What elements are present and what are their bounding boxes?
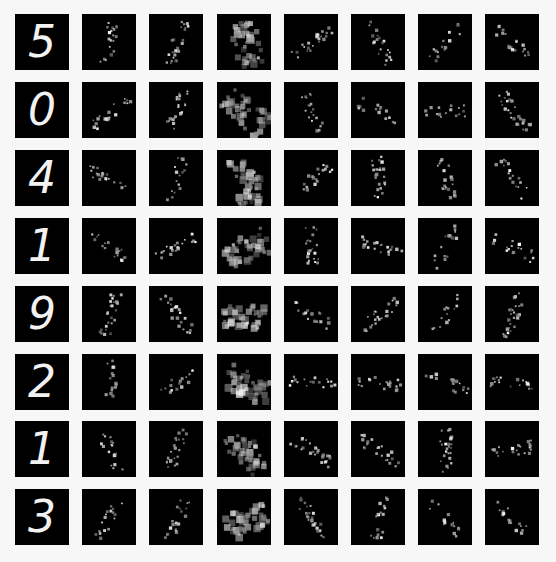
feature-map-tile <box>485 218 539 274</box>
activation-pattern-icon <box>485 421 539 477</box>
input-digit-tile: 2 <box>15 354 69 410</box>
activation-pattern-icon <box>485 82 539 138</box>
feature-map-tile <box>82 286 136 342</box>
activation-pattern-icon <box>284 421 338 477</box>
feature-map-tile <box>485 354 539 410</box>
feature-map-tile <box>149 14 203 70</box>
activation-pattern-icon <box>217 14 271 70</box>
activation-pattern-icon <box>284 489 338 545</box>
activation-pattern-icon <box>485 489 539 545</box>
feature-map-tile <box>82 14 136 70</box>
feature-map-tile <box>418 218 472 274</box>
feature-map-tile <box>82 218 136 274</box>
feature-map-tile <box>485 421 539 477</box>
feature-map-tile <box>149 150 203 206</box>
activation-pattern-icon <box>284 82 338 138</box>
feature-map-tile <box>351 421 405 477</box>
digit-label: 2 <box>15 354 69 410</box>
activation-pattern-icon <box>418 286 472 342</box>
feature-map-tile <box>284 218 338 274</box>
feature-map-tile <box>217 489 271 545</box>
feature-map-tile <box>418 286 472 342</box>
activation-pattern-icon <box>217 218 271 274</box>
feature-map-tile <box>485 286 539 342</box>
activation-pattern-icon <box>418 354 472 410</box>
feature-map-tile <box>284 14 338 70</box>
feature-map-tile <box>217 286 271 342</box>
feature-map-tile <box>418 421 472 477</box>
feature-map-tile <box>82 421 136 477</box>
activation-pattern-icon <box>351 82 405 138</box>
feature-map-tile <box>485 150 539 206</box>
feature-map-tile <box>217 82 271 138</box>
feature-map-tile <box>82 354 136 410</box>
input-digit-tile: 1 <box>15 218 69 274</box>
activation-pattern-icon <box>149 354 203 410</box>
activation-pattern-icon <box>351 354 405 410</box>
feature-map-tile <box>149 421 203 477</box>
digit-label: 0 <box>15 82 69 138</box>
activation-pattern-icon <box>149 14 203 70</box>
activation-pattern-icon <box>418 14 472 70</box>
activation-pattern-icon <box>217 82 271 138</box>
feature-map-tile <box>351 14 405 70</box>
activation-pattern-icon <box>284 218 338 274</box>
activation-pattern-icon <box>418 82 472 138</box>
feature-map-tile <box>284 82 338 138</box>
feature-map-tile <box>217 150 271 206</box>
digit-label: 4 <box>15 150 69 206</box>
digit-label: 9 <box>15 286 69 342</box>
feature-map-tile <box>149 82 203 138</box>
activation-pattern-icon <box>351 489 405 545</box>
activation-pattern-icon <box>284 14 338 70</box>
activation-pattern-icon <box>82 489 136 545</box>
activation-pattern-icon <box>351 150 405 206</box>
activation-pattern-icon <box>485 354 539 410</box>
input-digit-tile: 4 <box>15 150 69 206</box>
feature-map-tile <box>217 218 271 274</box>
activation-pattern-icon <box>149 286 203 342</box>
input-digit-tile: 5 <box>15 14 69 70</box>
feature-map-tile <box>418 489 472 545</box>
activation-pattern-icon <box>82 286 136 342</box>
feature-map-tile <box>351 354 405 410</box>
feature-map-tile <box>284 286 338 342</box>
feature-map-tile <box>217 354 271 410</box>
feature-map-tile <box>284 150 338 206</box>
feature-map-grid: 50419213 <box>0 0 556 562</box>
input-digit-tile: 3 <box>15 489 69 545</box>
feature-map-tile <box>217 421 271 477</box>
activation-pattern-icon <box>149 489 203 545</box>
activation-pattern-icon <box>485 150 539 206</box>
feature-map-tile <box>149 286 203 342</box>
feature-map-tile <box>284 354 338 410</box>
feature-map-tile <box>418 82 472 138</box>
activation-pattern-icon <box>82 354 136 410</box>
activation-pattern-icon <box>217 286 271 342</box>
activation-pattern-icon <box>149 150 203 206</box>
activation-pattern-icon <box>149 218 203 274</box>
activation-pattern-icon <box>418 421 472 477</box>
digit-label: 1 <box>15 218 69 274</box>
feature-map-tile <box>284 421 338 477</box>
activation-pattern-icon <box>82 218 136 274</box>
activation-pattern-icon <box>351 14 405 70</box>
digit-label: 1 <box>15 421 69 477</box>
activation-pattern-icon <box>82 14 136 70</box>
activation-pattern-icon <box>485 218 539 274</box>
feature-map-tile <box>217 14 271 70</box>
feature-map-tile <box>82 489 136 545</box>
feature-map-tile <box>485 14 539 70</box>
feature-map-tile <box>418 150 472 206</box>
digit-label: 3 <box>15 489 69 545</box>
feature-map-tile <box>351 286 405 342</box>
feature-map-tile <box>82 150 136 206</box>
activation-pattern-icon <box>82 82 136 138</box>
feature-map-tile <box>418 14 472 70</box>
feature-map-tile <box>351 150 405 206</box>
activation-pattern-icon <box>284 286 338 342</box>
feature-map-tile <box>351 218 405 274</box>
feature-map-tile <box>149 489 203 545</box>
feature-map-tile <box>149 354 203 410</box>
activation-pattern-icon <box>217 150 271 206</box>
